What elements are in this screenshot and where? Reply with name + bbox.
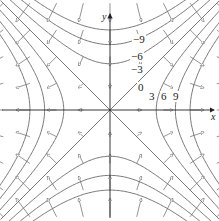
gradient-arrow-icon: [163, 57, 172, 66]
gradient-arrow-icon: [16, 154, 30, 163]
gradient-arrow-icon: [0, 83, 3, 88]
gradient-arrow-icon: [48, 57, 57, 66]
y-axis-label: y: [101, 11, 107, 22]
gradient-arrow-icon: [0, 154, 3, 163]
level-label: 6: [161, 90, 167, 102]
gradient-arrow-icon: [137, 154, 142, 163]
gradient-arrow-icon: [79, 30, 84, 44]
gradient-arrow-icon: [217, 132, 219, 137]
gradient-arrow-icon: [217, 83, 219, 88]
level-curve-diagram: x y −9−6−30369: [0, 0, 219, 221]
gradient-arrow-icon: [163, 132, 172, 137]
gradient-arrow-icon: [16, 177, 30, 191]
gradient-arrow-icon: [0, 132, 3, 137]
level-curves: [0, 0, 219, 221]
gradient-arrow-icon: [190, 199, 204, 217]
gradient-arrow-icon: [48, 3, 57, 21]
gradient-arrow-icon: [79, 154, 84, 163]
level-label: −3: [131, 63, 143, 75]
gradient-arrow-icon: [0, 57, 3, 66]
gradient-arrow-icon: [190, 83, 204, 88]
gradient-arrow-icon: [79, 57, 84, 66]
gradient-arrow-icon: [163, 199, 172, 217]
gradient-arrow-icon: [79, 83, 84, 88]
gradient-arrow-icon: [217, 154, 219, 163]
x-axis-label: x: [210, 111, 216, 122]
gradient-arrow-icon: [190, 30, 204, 44]
level-label: −9: [133, 33, 145, 45]
gradient-arrow-icon: [190, 3, 204, 21]
gradient-arrow-icon: [163, 3, 172, 21]
gradient-arrow-icon: [137, 3, 142, 21]
level-label: 9: [173, 90, 179, 102]
gradient-arrow-icon: [16, 132, 30, 137]
gradient-arrow-icon: [48, 199, 57, 217]
level-label: −6: [131, 50, 143, 62]
gradient-arrow-icon: [190, 132, 204, 137]
gradient-arrow-icon: [79, 199, 84, 217]
level-label: 0: [138, 81, 144, 93]
gradient-arrow-icon: [137, 199, 142, 217]
gradient-arrow-icon: [79, 3, 84, 21]
gradient-arrow-icon: [48, 30, 57, 44]
axes: x y: [2, 11, 216, 218]
gradient-arrow-icon: [163, 154, 172, 163]
gradient-arrow-icon: [48, 177, 57, 191]
gradient-arrow-icon: [48, 132, 57, 137]
gradient-arrow-icon: [190, 154, 204, 163]
gradient-arrow-icon: [163, 83, 172, 88]
gradient-arrow-icon: [48, 83, 57, 88]
gradient-arrow-icon: [79, 132, 84, 137]
gradient-arrow-icon: [16, 83, 30, 88]
gradient-arrow-icon: [163, 177, 172, 191]
gradient-arrow-icon: [16, 199, 30, 217]
gradient-arrow-icon: [16, 3, 30, 21]
gradient-arrow-icon: [137, 132, 142, 137]
gradient-arrow-icon: [163, 30, 172, 44]
gradient-arrow-icon: [48, 154, 57, 163]
gradient-arrow-icon: [79, 177, 84, 191]
gradient-arrow-icon: [217, 57, 219, 66]
level-label: 3: [149, 90, 155, 102]
gradient-arrow-icon: [16, 30, 30, 44]
gradient-arrow-icon: [190, 57, 204, 66]
gradient-arrow-icon: [190, 177, 204, 191]
gradient-arrow-icon: [137, 177, 142, 191]
gradient-arrow-icon: [16, 57, 30, 66]
